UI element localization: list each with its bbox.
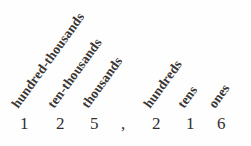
- digit-ones: 6: [217, 115, 226, 132]
- digit-thousands: 5: [90, 115, 99, 132]
- place-label-ones: ones: [206, 81, 232, 110]
- digit-hundred-thousands: 1: [20, 115, 29, 132]
- digit-tens: 1: [186, 115, 195, 132]
- digit-ten-thousands: 2: [56, 115, 65, 132]
- place-label-tens: tens: [175, 83, 200, 110]
- digit-hundreds: 2: [152, 115, 161, 132]
- thousands-group-separator: ,: [121, 115, 125, 132]
- place-value-chart: hundred-thousands 1 ten-thousands 2 thou…: [0, 0, 251, 146]
